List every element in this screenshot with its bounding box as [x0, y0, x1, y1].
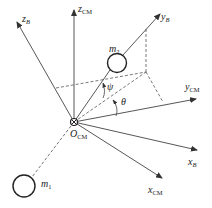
- axis-y-b-upper: [123, 14, 160, 55]
- label-origin: OCM: [70, 129, 87, 141]
- label-m2: m2: [109, 44, 119, 56]
- dashed-line-to-m1: [32, 122, 74, 177]
- axes: [17, 10, 197, 178]
- axis-y-b-lower: [74, 70, 110, 122]
- axis-x-b: [74, 122, 197, 150]
- psi-arc: [103, 83, 105, 98]
- label-theta: θ: [121, 97, 126, 107]
- label-x-cm: xCM: [148, 185, 163, 197]
- label-y-b: yB: [161, 12, 169, 24]
- label-psi: ψ: [107, 82, 113, 92]
- mass-m1-circle: [13, 175, 35, 197]
- dashed-line-top: [56, 72, 146, 88]
- diagram-canvas: [0, 0, 212, 208]
- axis-y-cm: [74, 99, 196, 122]
- coordinate-frame-diagram: zCM zB yB yCM xB xCM OCM m2 m1 ψ θ: [0, 0, 212, 208]
- theta-arc: [113, 100, 117, 116]
- label-x-b: xB: [188, 157, 196, 169]
- axis-z-b: [17, 22, 74, 122]
- origin-marker-icon: [71, 119, 78, 126]
- dashed-construction-lines: [32, 29, 163, 177]
- label-y-cm: yCM: [185, 82, 200, 94]
- label-z-cm: zCM: [78, 4, 92, 16]
- dashed-line-to-ycm: [146, 72, 163, 102]
- label-z-b: zB: [22, 14, 30, 26]
- dashed-projection-line: [74, 72, 146, 122]
- label-m1: m1: [41, 179, 51, 191]
- mass-m2-circle: [108, 54, 127, 73]
